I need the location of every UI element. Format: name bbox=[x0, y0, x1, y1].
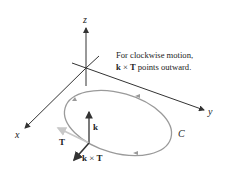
y-axis-label: y bbox=[207, 106, 213, 117]
axes bbox=[25, 28, 204, 128]
k-label: k bbox=[93, 122, 98, 132]
direction-arrow-bottom bbox=[133, 151, 138, 155]
curve-ellipse bbox=[57, 79, 179, 167]
vector-diagram: z y x For clockwise motion, k × T points… bbox=[0, 0, 231, 175]
curve-c bbox=[57, 79, 179, 167]
x-axis bbox=[25, 68, 86, 128]
kxt-label: k × T bbox=[82, 153, 103, 163]
z-axis-label: z bbox=[82, 14, 87, 25]
x-axis-label: x bbox=[14, 129, 20, 140]
annotation-line1: For clockwise motion, bbox=[116, 50, 193, 60]
annotation-line2: k × T points outward. bbox=[116, 62, 191, 72]
t-label: T bbox=[59, 137, 65, 147]
curve-label: C bbox=[178, 128, 185, 139]
x-axis-back bbox=[86, 56, 99, 68]
